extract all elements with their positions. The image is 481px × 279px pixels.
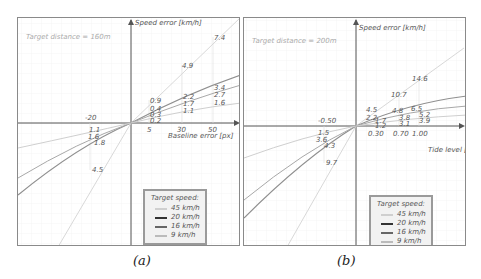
target-distance-label: Target distance = 200m — [252, 37, 337, 45]
data-label: 1.1 — [183, 107, 194, 115]
data-label: 14.6 — [412, 75, 428, 83]
x-axis-label: Tide level [m] — [428, 146, 466, 154]
chart-panel-a: Target distance = 160m Speed error [km/h… — [17, 17, 240, 246]
chart-panel-b: Target distance = 200m Speed error [km/h… — [243, 17, 466, 246]
legend-item-45kmh: 45 km/h — [381, 210, 431, 219]
caption-b: (b) — [337, 253, 355, 268]
data-label: 0.9 — [150, 97, 161, 105]
x-tick: -20 — [85, 114, 96, 122]
data-label: 4.3 — [324, 142, 335, 150]
data-label: 3.1 — [399, 120, 410, 128]
data-label: 7.4 — [214, 34, 225, 42]
data-label: 0.2 — [150, 117, 161, 125]
legend-item-20kmh: 20 km/h — [381, 219, 431, 228]
x-tick: 0.70 — [393, 130, 409, 138]
legend-item-16kmh: 16 km/h — [155, 222, 205, 231]
data-label: 1.8 — [94, 139, 105, 147]
data-label: 9.7 — [326, 159, 337, 167]
caption-a: (a) — [133, 253, 151, 268]
data-label: 10.7 — [391, 91, 407, 99]
target-distance-label: Target distance = 160m — [26, 33, 111, 41]
y-axis-label: Speed error [km/h] — [359, 24, 426, 32]
legend-title: Target speed: — [371, 200, 431, 208]
data-label: 4.5 — [92, 166, 103, 174]
data-label: 1.2 — [375, 122, 386, 130]
x-tick: 1.00 — [412, 130, 428, 138]
legend-item-9kmh: 9 km/h — [381, 237, 431, 246]
legend: Target speed: 45 km/h 20 km/h 16 km/h 9 … — [369, 195, 433, 246]
data-label: 4.9 — [182, 62, 193, 70]
x-tick: 50 — [208, 126, 217, 134]
x-tick: 5 — [147, 126, 151, 134]
x-tick: 30 — [177, 126, 186, 134]
data-label: 3.9 — [419, 117, 430, 125]
legend: Target speed: 45 km/h 20 km/h 16 km/h 9 … — [143, 189, 207, 245]
legend-item-16kmh: 16 km/h — [381, 228, 431, 237]
legend-title: Target speed: — [145, 194, 205, 202]
x-tick: -0.50 — [318, 117, 336, 125]
legend-item-45kmh: 45 km/h — [155, 204, 205, 213]
y-axis-label: Speed error [km/h] — [135, 19, 202, 27]
data-label: 1.6 — [214, 99, 225, 107]
data-label: 4.5 — [366, 106, 377, 114]
legend-item-20kmh: 20 km/h — [155, 213, 205, 222]
legend-item-9kmh: 9 km/h — [155, 231, 205, 240]
data-label: 2.7 — [214, 91, 225, 99]
x-tick: 0.30 — [368, 130, 384, 138]
